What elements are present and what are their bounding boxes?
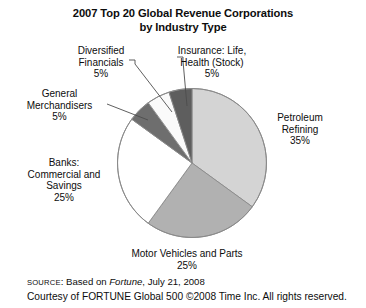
chart-title-line-2: by Industry Type bbox=[0, 21, 366, 35]
source-note: SOURCE: Based on Fortune, July 21, 2008 bbox=[27, 276, 205, 288]
source-publication: Fortune bbox=[109, 276, 142, 287]
pie-svg bbox=[117, 88, 267, 238]
slice-label-banks: Banks: Commercial and Savings 25% bbox=[10, 157, 118, 203]
source-suffix: , July 21, 2008 bbox=[142, 276, 204, 287]
slice-label-diversified-financials: Diversified Financials 5% bbox=[58, 45, 144, 80]
slice-label-general-merchandisers: General Merchandisers 5% bbox=[6, 88, 113, 123]
source-prefix: : Based on bbox=[61, 276, 110, 287]
source-keyword: SOURCE bbox=[27, 278, 61, 287]
chart-title-line-1: 2007 Top 20 Global Revenue Corporations bbox=[0, 7, 366, 21]
slice-label-motor-vehicles: Motor Vehicles and Parts 25% bbox=[92, 248, 282, 271]
pie-chart-figure: 2007 Top 20 Global Revenue Corporations … bbox=[0, 0, 366, 308]
courtesy-note: Courtesy of FORTUNE Global 500 ©2008 Tim… bbox=[27, 291, 347, 303]
pie-graphic bbox=[117, 88, 267, 238]
chart-title: 2007 Top 20 Global Revenue Corporations … bbox=[0, 7, 366, 34]
slice-label-insurance: Insurance: Life, Health (Stock) 5% bbox=[160, 45, 264, 80]
slice-label-petroleum-refining: Petroleum Refining 35% bbox=[258, 112, 342, 147]
